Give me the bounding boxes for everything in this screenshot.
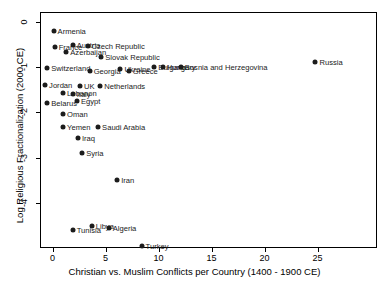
data-point-label: Egypt	[81, 97, 100, 106]
data-point	[89, 223, 94, 228]
data-point-label: Iraq	[82, 134, 95, 143]
data-point-label: Algeria	[113, 224, 137, 233]
y-axis-tick-mark	[36, 22, 40, 23]
data-point	[96, 124, 101, 129]
data-point	[52, 45, 57, 50]
data-point-label: Yemen	[67, 122, 90, 131]
data-point	[106, 226, 111, 231]
data-point-label: Armenia	[58, 26, 86, 35]
y-axis-tick-label: -1	[19, 63, 29, 71]
data-point	[118, 67, 123, 72]
data-point	[61, 91, 66, 96]
y-axis-tick-mark	[36, 112, 40, 113]
data-point-label: Belarus	[51, 99, 77, 108]
data-point-label: Jordan	[49, 80, 72, 89]
data-point	[74, 99, 79, 104]
data-point-label: Syria	[86, 149, 103, 158]
x-axis-tick-mark	[265, 248, 266, 252]
data-point-label: Switzerland	[51, 63, 90, 72]
data-point	[75, 136, 80, 141]
data-point	[98, 84, 103, 89]
x-axis-title: Christian vs. Muslim Conflicts per Count…	[69, 266, 321, 277]
data-point	[126, 68, 131, 73]
data-point	[70, 92, 75, 97]
scatter-plot-figure: Christian vs. Muslim Conflicts per Count…	[0, 0, 389, 294]
data-point-label: Russia	[319, 58, 342, 67]
data-point	[51, 28, 56, 33]
data-point	[160, 65, 165, 70]
data-point	[61, 111, 66, 116]
x-axis-tick-label: 0	[50, 253, 55, 263]
y-axis-tick-label: -3	[19, 154, 29, 162]
data-point	[43, 82, 48, 87]
y-axis-title: Log Religious Fractionalization (2000 CE…	[14, 21, 25, 251]
data-point	[61, 124, 66, 129]
y-axis-tick-mark	[36, 158, 40, 159]
data-point	[80, 151, 85, 156]
data-point	[139, 244, 144, 249]
x-axis-tick-label: 10	[154, 253, 164, 263]
data-point	[78, 84, 83, 89]
data-point-label: Saudi Arabia	[102, 122, 145, 131]
data-point-label: Netherlands	[104, 82, 145, 91]
data-point	[87, 68, 92, 73]
data-point	[115, 178, 120, 183]
x-axis-tick-label: 5	[103, 253, 108, 263]
y-axis-tick-label: -2	[19, 108, 29, 116]
x-axis-tick-mark	[318, 248, 319, 252]
y-axis-tick-label: 0	[19, 19, 29, 24]
x-axis-tick-mark	[106, 248, 107, 252]
data-point	[45, 101, 50, 106]
data-point	[152, 65, 157, 70]
x-axis-tick-label: 15	[207, 253, 217, 263]
data-point-label: Turkey	[146, 242, 169, 251]
data-point-label: Iran	[121, 176, 134, 185]
x-axis-tick-mark	[53, 248, 54, 252]
data-point	[313, 60, 318, 65]
y-axis-tick-mark	[36, 203, 40, 204]
data-point-label: Georgia	[94, 66, 121, 75]
data-point	[45, 65, 50, 70]
y-axis-tick-label: -4	[19, 199, 29, 207]
data-point-label: Oman	[67, 109, 88, 118]
data-point	[70, 228, 75, 233]
x-axis-tick-mark	[212, 248, 213, 252]
data-point-label: Slovak Republic	[105, 53, 159, 62]
x-axis-tick-label: 25	[313, 253, 323, 263]
data-point	[64, 50, 69, 55]
x-axis-tick-label: 20	[260, 253, 270, 263]
data-point-label: Bosnia and Herzegovina	[185, 63, 268, 72]
data-point	[178, 65, 183, 70]
y-axis-tick-mark	[36, 67, 40, 68]
data-point	[99, 55, 104, 60]
